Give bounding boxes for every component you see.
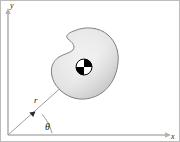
- y-axis-label: y: [9, 1, 14, 10]
- figure-canvas: y x r θ: [0, 0, 180, 142]
- center-of-mass-icon: [76, 59, 92, 75]
- radius-label: r: [34, 95, 38, 105]
- angle-label: θ: [45, 121, 50, 132]
- x-axis-label: x: [170, 132, 175, 141]
- physics-figure: y x r θ: [0, 0, 180, 142]
